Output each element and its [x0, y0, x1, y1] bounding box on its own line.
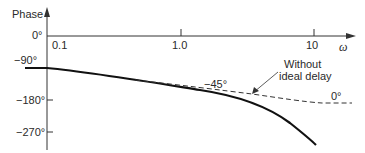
annotation-arrowhead-icon [252, 87, 259, 94]
annotation-without-line2: ideal delay [279, 70, 332, 82]
phase-plot: Phase ω 0.1 1.0 10 0° −90° −180° −270° −… [0, 0, 365, 153]
series-with-delay [25, 68, 316, 145]
annotation-without-line1: Without [284, 58, 321, 70]
x-axis-arrow-icon [346, 33, 356, 39]
y-tick-label-0: 0° [32, 29, 43, 41]
x-tick-label-10: 10 [306, 39, 318, 51]
y-tick-label-270: −270° [16, 126, 45, 138]
x-tick-label-1.0: 1.0 [172, 39, 187, 51]
y-axis-arrow-icon [44, 7, 50, 17]
y-tick-label-90: −90° [14, 54, 37, 66]
y-tick-label-180: −180° [16, 94, 45, 106]
x-tick-label-0.1: 0.1 [52, 39, 67, 51]
y-axis-label: Phase [12, 8, 43, 20]
annotation-0: 0° [331, 90, 342, 102]
x-axis-label: ω [339, 40, 347, 54]
annotation-arrow [254, 72, 278, 92]
annotation-minus-45: −45° [204, 78, 227, 90]
